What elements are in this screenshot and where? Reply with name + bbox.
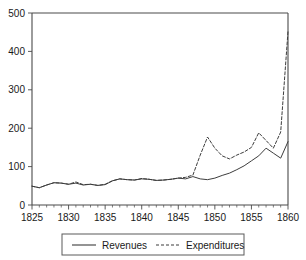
legend-label-expenditures: Expenditures	[186, 240, 244, 251]
x-tick-label: 1840	[131, 212, 154, 223]
chart-container: 0100200300400500 18251830183518401845185…	[0, 0, 306, 260]
x-tick-label: 1825	[21, 212, 44, 223]
y-axis: 0100200300400500	[8, 8, 32, 211]
legend-label-revenues: Revenues	[102, 240, 147, 251]
x-tick-label: 1830	[57, 212, 80, 223]
legend: Revenues Expenditures	[62, 234, 244, 255]
x-tick-label: 1850	[204, 212, 227, 223]
y-tick-label: 400	[8, 46, 25, 57]
line-chart-figure: 0100200300400500 18251830183518401845185…	[0, 0, 306, 260]
x-tick-label: 1835	[94, 212, 117, 223]
x-axis: 18251830183518401845185018551860	[21, 205, 300, 223]
y-tick-label: 100	[8, 161, 25, 172]
y-tick-label: 200	[8, 123, 25, 134]
x-tick-label: 1855	[240, 212, 263, 223]
plot-area-background	[32, 13, 288, 205]
y-tick-label: 500	[8, 8, 25, 19]
x-tick-label: 1845	[167, 212, 190, 223]
y-tick-label: 300	[8, 84, 25, 95]
x-tick-label: 1860	[277, 212, 300, 223]
y-tick-label: 0	[19, 200, 25, 211]
